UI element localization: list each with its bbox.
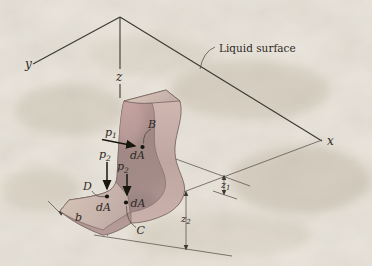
dA-dot-C	[124, 200, 128, 204]
b-dimension-label: b	[75, 211, 82, 224]
point-B-label: B	[147, 118, 156, 131]
figure-liquid-pressure-curved-plate: Liquid surface y z x B D C p1 p2 p2 dA d…	[0, 0, 372, 266]
dA-label-C: dA	[131, 197, 146, 210]
y-axis-label: y	[24, 57, 32, 71]
dA-label-B: dA	[130, 149, 145, 162]
point-D-label: D	[82, 180, 92, 193]
diagram-canvas: Liquid surface y z x B D C p1 p2 p2 dA d…	[0, 0, 372, 266]
x-axis-label: x	[327, 134, 334, 148]
dA-dot-D	[105, 194, 109, 198]
liquid-surface-label: Liquid surface	[219, 42, 296, 54]
dA-label-D: dA	[96, 201, 111, 214]
point-C-label: C	[137, 224, 146, 237]
z-axis-label: z	[115, 70, 123, 84]
